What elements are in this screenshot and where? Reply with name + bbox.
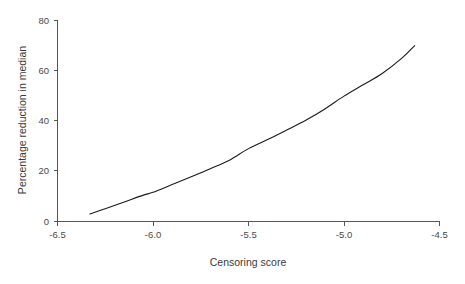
x-axis-title: Censoring score bbox=[210, 256, 287, 268]
x-tick-label-minus5-0: -5.0 bbox=[336, 229, 352, 240]
x-axis-ticks bbox=[58, 222, 440, 226]
y-tick-label-0: 0 bbox=[44, 216, 49, 227]
y-axis-title: Percentage reduction in median bbox=[16, 46, 28, 194]
x-tick-label-minus5-5: -5.5 bbox=[240, 229, 256, 240]
y-axis-ticks bbox=[54, 21, 58, 222]
y-tick-label-40: 40 bbox=[38, 115, 49, 126]
y-axis-tick-labels: 80 60 40 20 0 bbox=[38, 15, 49, 227]
chart-canvas: 80 60 40 20 0 -6.5 -6.0 -5.5 -5.0 -4.5 C… bbox=[0, 0, 465, 284]
x-tick-label-minus6-0: -6.0 bbox=[145, 229, 161, 240]
data-curve-line bbox=[90, 46, 415, 214]
x-tick-label-minus6-5: -6.5 bbox=[49, 229, 65, 240]
chart-figure: 80 60 40 20 0 -6.5 -6.0 -5.5 -5.0 -4.5 C… bbox=[0, 0, 465, 284]
x-tick-label-minus4-5: -4.5 bbox=[431, 229, 447, 240]
x-axis-tick-labels: -6.5 -6.0 -5.5 -5.0 -4.5 bbox=[49, 229, 447, 240]
y-tick-label-60: 60 bbox=[38, 65, 49, 76]
y-tick-label-20: 20 bbox=[38, 165, 49, 176]
y-tick-label-80: 80 bbox=[38, 15, 49, 26]
